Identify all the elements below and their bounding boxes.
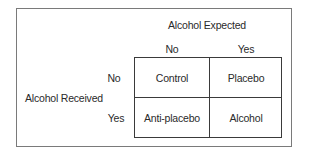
cell-anti-placebo: Anti-placebo <box>144 112 200 124</box>
cell-alcohol: Alcohol <box>229 112 262 124</box>
row-factor-title: Alcohol Received <box>25 92 103 104</box>
column-level-no: No <box>165 43 178 55</box>
grid-horizontal-divider <box>134 97 282 98</box>
row-level-no: No <box>107 72 120 84</box>
cell-placebo: Placebo <box>228 72 265 84</box>
column-factor-title: Alcohol Expected <box>168 19 246 31</box>
row-level-yes: Yes <box>108 112 125 124</box>
cell-control: Control <box>156 72 188 84</box>
column-level-yes: Yes <box>238 43 255 55</box>
